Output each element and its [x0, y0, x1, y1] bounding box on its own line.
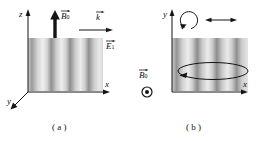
vector-label-E1-a: E1	[106, 42, 115, 51]
panel-b: y x B0	[131, 0, 262, 141]
vector-label-k-a: k	[96, 13, 100, 22]
circular-arrow-icon	[175, 6, 203, 34]
axis-label-y-b: y	[163, 10, 167, 19]
vector-arrow-overbar-icon	[106, 39, 115, 43]
vector-glyph-B0-b: B	[139, 71, 145, 80]
vector-glyph-k-a: k	[96, 13, 100, 22]
double-arrow-icon	[204, 14, 240, 26]
figure-canvas: z x y B0 k	[0, 0, 262, 141]
axis-label-x-a: x	[105, 80, 109, 89]
vector-label-B0-a: B0	[61, 12, 70, 21]
axis-label-y-a: y	[7, 97, 11, 106]
axis-label-z-a: z	[19, 10, 23, 19]
vector-label-B0-b: B0	[139, 71, 148, 80]
panel-a: z x y B0 k	[0, 0, 131, 141]
vector-arrow-overbar-icon	[139, 68, 148, 72]
vector-glyph-E1-a: E	[106, 42, 112, 51]
vector-arrow-overbar-icon	[61, 9, 70, 13]
circle-dot-icon	[140, 85, 154, 99]
panel-caption-a: ( a )	[52, 122, 67, 132]
ellipse-orbit-icon	[173, 58, 253, 84]
vector-arrow-overbar-icon	[96, 10, 104, 14]
panel-caption-b: ( b )	[186, 122, 201, 132]
vector-glyph-B0-a: B	[61, 12, 67, 21]
axis-z-a	[0, 0, 131, 141]
